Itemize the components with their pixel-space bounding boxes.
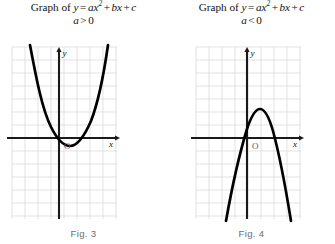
x-axis-label: x: [292, 139, 297, 149]
title-plus-2: +: [290, 1, 299, 13]
title-y: y: [242, 1, 247, 13]
x-axis-arrow-icon: [115, 135, 120, 140]
figure-title-right-line2: a<0: [168, 14, 335, 27]
x-axis-arrow-icon: [299, 135, 304, 140]
plot-area-left: y x O: [12, 47, 117, 219]
figure-title-left-line1: Graph of y=ax2+bx+c: [0, 1, 167, 14]
condition-a: a: [73, 14, 79, 26]
figure-caption-right: Fig. 4: [168, 228, 335, 239]
title-c: c: [131, 1, 136, 13]
y-axis-arrow-icon: [244, 47, 249, 52]
condition-zero: 0: [88, 14, 94, 26]
y-axis-label: y: [250, 48, 255, 58]
figure-title-right-line1: Graph of y=ax2+bx+c: [168, 1, 335, 14]
figure-panel-left: Graph of y=ax2+bx+c a>0: [0, 0, 167, 244]
title-c: c: [299, 1, 304, 13]
y-axis-label: y: [62, 48, 67, 58]
condition-relation: >: [79, 14, 88, 26]
x-axis-label: x: [108, 139, 113, 149]
parabola-curve-downward: [226, 109, 291, 221]
title-prefix: Graph of: [31, 1, 74, 13]
parabola-chart-downward: y x O: [196, 47, 301, 219]
grid-lines: [12, 47, 117, 219]
figure-panel-right: Graph of y=ax2+bx+c a<0: [168, 0, 335, 244]
title-equals: =: [79, 1, 88, 13]
title-plus-2: +: [122, 1, 131, 13]
title-y: y: [74, 1, 79, 13]
title-equals: =: [247, 1, 256, 13]
title-prefix: Graph of: [199, 1, 242, 13]
condition-a: a: [241, 14, 247, 26]
figure-title-right: Graph of y=ax2+bx+c a<0: [168, 1, 335, 27]
origin-label: O: [252, 141, 259, 151]
figure-caption-left: Fig. 3: [0, 228, 167, 239]
figure-title-left: Graph of y=ax2+bx+c a>0: [0, 1, 167, 27]
figure-title-left-line2: a>0: [0, 14, 167, 27]
condition-relation: <: [247, 14, 256, 26]
parabola-chart-upward: y x O: [12, 47, 117, 219]
condition-zero: 0: [256, 14, 262, 26]
plot-area-right: y x O: [196, 47, 301, 219]
origin-label: O: [64, 141, 71, 151]
y-axis-arrow-icon: [56, 47, 61, 52]
